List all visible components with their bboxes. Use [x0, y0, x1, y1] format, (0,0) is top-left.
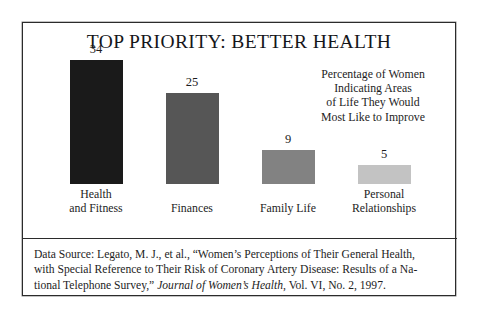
bar-category-label: Health and Fitness: [53, 188, 139, 215]
bar-value-label: 34: [90, 43, 103, 56]
bar-category-label: Finances: [149, 202, 235, 216]
annotation-line: Indicating Areas: [293, 81, 453, 95]
annotation-line: Percentage of Women: [293, 67, 453, 81]
source-note-line: with Special Reference to Their Risk of …: [34, 262, 446, 277]
figure-frame: TOP PRIORITY: BETTER HEALTH 34 Health an…: [22, 22, 456, 296]
source-divider: [23, 238, 457, 239]
annotation-line: Most Like to Improve: [293, 110, 453, 124]
source-note-line-pre: tional Telephone Survey,”: [34, 279, 157, 292]
bar-category-label-line: Family Life: [245, 202, 331, 216]
bar-category-label: Personal Relationships: [341, 188, 427, 215]
bar-category-label: Family Life: [245, 202, 331, 216]
source-note-line-post: , Vol. VI, No. 2, 1997.: [283, 279, 386, 292]
bar-value-label: 5: [381, 148, 387, 161]
chart-annotation: Percentage of Women Indicating Areas of …: [293, 67, 453, 124]
bar-rect-family-life[interactable]: [262, 150, 315, 184]
bar-group-finances: 25 Finances: [149, 38, 235, 215]
bar-rect-health-and-fitness[interactable]: [70, 60, 123, 184]
bar-group-health-and-fitness: 34 Health and Fitness: [53, 38, 139, 215]
bar-value-label: 25: [186, 76, 199, 89]
bar-category-label-line: and Fitness: [53, 202, 139, 216]
bar-value-label: 9: [285, 133, 291, 146]
bar-category-label-line: Relationships: [341, 202, 427, 216]
bar-rect-finances[interactable]: [166, 93, 219, 184]
source-note-line: Data Source: Legato, M. J., et al., “Wom…: [34, 247, 446, 262]
bar-rect-personal-relationships[interactable]: [358, 165, 411, 184]
bar-group-family-life: 9 Family Life: [245, 38, 331, 215]
bar-category-label-line: Health: [53, 188, 139, 202]
bar-column: 25: [149, 38, 235, 184]
bar-chart-plot-area: 34 Health and Fitness 25 Finances 9: [23, 23, 457, 239]
bar-column: 34: [53, 38, 139, 184]
source-note-line: tional Telephone Survey,” Journal of Wom…: [34, 278, 446, 293]
bar-group-personal-relationships: 5 Personal Relationships: [341, 38, 427, 215]
source-note-journal-title: Journal of Women’s Health: [157, 279, 283, 292]
source-note: Data Source: Legato, M. J., et al., “Wom…: [34, 247, 446, 293]
annotation-line: of Life They Would: [293, 95, 453, 109]
bar-category-label-line: Personal: [341, 188, 427, 202]
bar-category-label-line: Finances: [149, 202, 235, 216]
